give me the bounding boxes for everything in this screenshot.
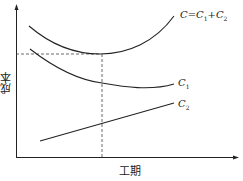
axes [15, 4, 240, 160]
curve-label-c: C=C1+C2 [180, 9, 227, 22]
curve-label-c-main: C=C [180, 9, 204, 20]
curve-label-c1: C1 [178, 77, 189, 90]
curve-label-c1-sub: 1 [186, 83, 190, 90]
x-axis-arrow-icon [233, 156, 239, 160]
optimum-guides [16, 54, 102, 157]
curves [29, 16, 174, 141]
curve-label-c-sub2: 2 [224, 15, 228, 22]
total-cost-curve-c [29, 16, 174, 54]
y-axis-arrow-icon [15, 4, 19, 10]
cost-duration-chart [0, 0, 243, 181]
curve-label-c1-main: C [178, 77, 186, 88]
indirect-cost-line-c2 [40, 103, 174, 141]
curve-label-c2: C2 [178, 98, 189, 111]
y-axis-label: 成本 [1, 72, 13, 94]
curve-label-c2-main: C [178, 98, 186, 109]
curve-label-c2-sub: 2 [186, 104, 190, 111]
x-axis-label: 工期 [119, 162, 141, 178]
curve-label-c-plus: +C [208, 9, 224, 20]
